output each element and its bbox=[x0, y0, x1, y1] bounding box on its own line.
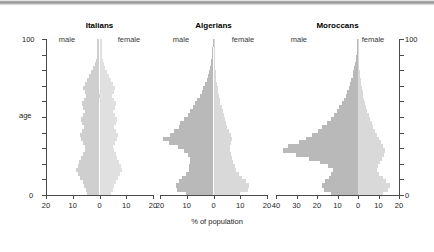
bar-male bbox=[288, 144, 358, 149]
pyramid-plot bbox=[160, 39, 267, 195]
bar-female bbox=[100, 156, 118, 161]
bar-male bbox=[331, 172, 358, 177]
bar-male bbox=[342, 101, 358, 106]
age-axis-right bbox=[399, 39, 400, 195]
bar-female bbox=[358, 70, 360, 75]
bar-female bbox=[214, 55, 215, 60]
bar-female bbox=[214, 121, 227, 126]
x-axis-tick bbox=[297, 195, 298, 199]
bar-female bbox=[214, 133, 231, 138]
bar-male bbox=[184, 117, 213, 122]
bar-female bbox=[100, 86, 116, 91]
bar-female bbox=[100, 125, 115, 130]
bar-male bbox=[89, 74, 99, 79]
bar-female bbox=[214, 59, 215, 64]
age-axis-tick bbox=[400, 101, 404, 102]
bar-male bbox=[80, 176, 100, 181]
x-axis-tick-label: 10 bbox=[236, 201, 244, 210]
bar-male bbox=[85, 82, 99, 87]
bar-female bbox=[100, 144, 114, 149]
bar-male bbox=[91, 70, 99, 75]
x-axis-tick bbox=[153, 195, 154, 199]
bar-female bbox=[358, 187, 388, 192]
bar-female bbox=[214, 183, 250, 188]
x-axis-tick-label: 30 bbox=[292, 201, 300, 210]
bar-female bbox=[358, 172, 379, 177]
bar-male bbox=[83, 152, 100, 157]
bar-female bbox=[100, 113, 116, 118]
bar-male bbox=[337, 109, 358, 114]
bar-male bbox=[84, 125, 100, 130]
x-axis-tick-label: 10 bbox=[374, 201, 382, 210]
bar-female bbox=[358, 109, 367, 114]
bar-female bbox=[100, 98, 115, 103]
pyramid-plot bbox=[276, 39, 399, 195]
bar-female bbox=[214, 156, 232, 161]
bar-female bbox=[100, 62, 105, 67]
bar-female bbox=[100, 187, 113, 192]
bar-male bbox=[283, 148, 358, 153]
bar-male bbox=[83, 140, 100, 145]
x-axis-tick bbox=[267, 195, 268, 199]
bar-female bbox=[100, 66, 106, 71]
bar-female bbox=[100, 179, 116, 184]
age-axis-title: age bbox=[19, 111, 32, 120]
age-axis-max-label-right: 100 bbox=[405, 35, 418, 44]
bar-male bbox=[349, 86, 358, 91]
bar-female bbox=[214, 70, 216, 75]
bar-female bbox=[100, 168, 122, 173]
x-axis-tick bbox=[358, 195, 359, 199]
age-axis-tick bbox=[400, 133, 404, 134]
bar-male bbox=[189, 164, 213, 169]
x-axis-tick bbox=[160, 195, 161, 199]
bar-female bbox=[100, 82, 114, 87]
bar-male bbox=[205, 82, 214, 87]
bar-male bbox=[350, 82, 358, 87]
x-axis-tick bbox=[100, 195, 101, 199]
bar-male bbox=[207, 78, 214, 83]
bar-female bbox=[358, 62, 359, 67]
bar-male bbox=[87, 78, 99, 83]
bar-female bbox=[100, 148, 114, 153]
bar-female bbox=[214, 105, 222, 110]
x-axis-tick bbox=[240, 195, 241, 199]
bar-male bbox=[186, 172, 214, 177]
x-axis-tick-label: 40 bbox=[272, 201, 280, 210]
bar-female bbox=[214, 160, 234, 165]
panel-title: Italians bbox=[46, 21, 153, 30]
bar-female bbox=[358, 98, 364, 103]
bar-male bbox=[85, 109, 99, 114]
bar-female bbox=[358, 144, 383, 149]
bar-female bbox=[214, 74, 216, 79]
bar-male bbox=[327, 121, 358, 126]
bar-female bbox=[214, 98, 220, 103]
bar-female bbox=[100, 109, 114, 114]
x-axis-tick-label: 10 bbox=[333, 201, 341, 210]
bar-female bbox=[358, 74, 360, 79]
x-axis-tick-label: 10 bbox=[183, 201, 191, 210]
bar-male bbox=[189, 168, 214, 173]
x-axis-tick-label: 10 bbox=[122, 201, 130, 210]
age-axis-tick bbox=[400, 179, 404, 180]
bar-male bbox=[82, 129, 100, 134]
bar-female bbox=[358, 164, 378, 169]
bar-male bbox=[203, 86, 213, 91]
x-axis-tick-label: 20 bbox=[395, 201, 403, 210]
pyramid-panel-italians: Italians male female 201001020 bbox=[46, 5, 153, 252]
bar-female bbox=[214, 109, 223, 114]
bar-female bbox=[100, 137, 117, 142]
bar-male bbox=[188, 113, 214, 118]
age-axis-tick bbox=[400, 164, 404, 165]
x-axis-tick-label: 20 bbox=[156, 201, 164, 210]
bar-female bbox=[214, 148, 231, 153]
bar-female bbox=[214, 82, 217, 87]
x-axis-tick bbox=[214, 195, 215, 199]
bar-female bbox=[214, 179, 247, 184]
bar-female bbox=[214, 187, 248, 192]
age-axis-max-label-left: 100 bbox=[22, 35, 35, 44]
bar-male bbox=[83, 105, 99, 110]
bar-female bbox=[358, 152, 384, 157]
bar-male bbox=[324, 187, 358, 192]
age-axis-tick bbox=[400, 195, 404, 196]
population-pyramid-figure: 100 0 100 0 age Italians male female 201… bbox=[0, 5, 434, 252]
